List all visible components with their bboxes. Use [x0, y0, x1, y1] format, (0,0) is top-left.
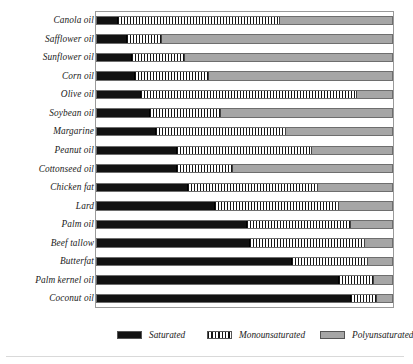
category-label: Cottonseed oil [39, 160, 94, 179]
bar-segment-monounsaturated [127, 35, 162, 42]
stacked-bar [96, 16, 393, 25]
legend-label-monounsaturated: Monounsaturated [239, 330, 305, 340]
legend-label-polyunsaturated: Polyunsaturated [352, 330, 413, 340]
bar-segment-monounsaturated [156, 128, 286, 135]
category-label: Safflower oil [45, 30, 94, 49]
category-label: Butterfat [60, 252, 94, 271]
category-label: Chicken fat [50, 178, 94, 197]
category-label: Beef tallow [51, 234, 94, 253]
bar-segment-monounsaturated [339, 276, 374, 283]
bar-segment-polyunsaturated [318, 184, 392, 191]
chart-legend: Saturated Monounsaturated Polyunsaturate… [0, 327, 410, 343]
bar-segment-saturated [97, 202, 215, 209]
stacked-bar [96, 257, 393, 266]
table-row: Sunflower oil [0, 48, 410, 67]
table-row: Margarine [0, 122, 410, 141]
bar-segment-monounsaturated [177, 165, 233, 172]
bar-segment-saturated [97, 184, 188, 191]
legend-swatch-saturated [117, 331, 142, 339]
bar-segment-polyunsaturated [286, 128, 392, 135]
bar-segment-monounsaturated [141, 91, 356, 98]
bar-segment-monounsaturated [132, 54, 185, 61]
bar-segment-saturated [97, 72, 135, 79]
stacked-bar [96, 275, 393, 284]
bar-segment-polyunsaturated [280, 17, 392, 24]
table-row: Butterfat [0, 252, 410, 271]
stacked-bar [96, 127, 393, 136]
bar-segment-polyunsaturated [221, 109, 392, 116]
table-row: Palm kernel oil [0, 271, 410, 290]
bar-segment-polyunsaturated [339, 202, 392, 209]
table-row: Canola oil [0, 11, 410, 30]
bar-segment-saturated [97, 295, 351, 302]
bar-segment-polyunsaturated [365, 239, 392, 246]
legend-swatch-monounsaturated [207, 331, 232, 339]
bar-segment-saturated [97, 165, 177, 172]
bar-segment-saturated [97, 17, 118, 24]
bar-segment-monounsaturated [351, 295, 378, 302]
bar-segment-monounsaturated [247, 221, 350, 228]
bar-segment-monounsaturated [118, 17, 280, 24]
stacked-bar [96, 201, 393, 210]
top-artifact-strip [0, 0, 410, 9]
table-row: Coconut oil [0, 289, 410, 308]
bar-segment-monounsaturated [177, 147, 313, 154]
table-row: Cottonseed oil [0, 160, 410, 179]
bar-rows-container: Canola oilSafflower oilSunflower oilCorn… [0, 11, 410, 308]
bar-segment-saturated [97, 35, 127, 42]
bar-segment-polyunsaturated [357, 91, 392, 98]
stacked-bar [96, 183, 393, 192]
table-row: Peanut oil [0, 141, 410, 160]
bar-segment-saturated [97, 54, 132, 61]
stacked-bar [96, 90, 393, 99]
category-label: Lard [76, 197, 94, 216]
bottom-divider [6, 356, 404, 357]
bar-segment-polyunsaturated [185, 54, 392, 61]
legend-item-polyunsaturated: Polyunsaturated [320, 327, 413, 343]
legend-label-saturated: Saturated [149, 330, 185, 340]
table-row: Beef tallow [0, 234, 410, 253]
bar-segment-monounsaturated [150, 109, 221, 116]
bar-segment-polyunsaturated [351, 221, 392, 228]
bar-segment-saturated [97, 91, 141, 98]
bar-segment-polyunsaturated [209, 72, 392, 79]
category-label: Margarine [53, 122, 94, 141]
stacked-bar [96, 71, 393, 80]
table-row: Soybean oil [0, 104, 410, 123]
category-label: Palm oil [61, 215, 94, 234]
bar-segment-monounsaturated [188, 184, 318, 191]
bar-segment-monounsaturated [215, 202, 339, 209]
legend-item-saturated: Saturated [117, 327, 185, 343]
category-label: Sunflower oil [43, 48, 94, 67]
legend-item-monounsaturated: Monounsaturated [207, 327, 305, 343]
table-row: Palm oil [0, 215, 410, 234]
stacked-bar [96, 146, 393, 155]
bar-segment-monounsaturated [135, 72, 209, 79]
category-label: Coconut oil [49, 289, 94, 308]
bar-segment-polyunsaturated [374, 276, 392, 283]
stacked-bar [96, 294, 393, 303]
bar-segment-polyunsaturated [233, 165, 392, 172]
category-label: Soybean oil [49, 104, 94, 123]
category-label: Corn oil [62, 67, 94, 86]
bar-segment-saturated [97, 276, 339, 283]
bar-segment-saturated [97, 221, 247, 228]
table-row: Corn oil [0, 67, 410, 86]
stacked-bar [96, 34, 393, 43]
table-row: Safflower oil [0, 30, 410, 49]
bar-segment-polyunsaturated [162, 35, 392, 42]
bar-segment-polyunsaturated [377, 295, 392, 302]
bar-segment-monounsaturated [292, 258, 369, 265]
category-label: Palm kernel oil [35, 271, 94, 290]
category-label: Canola oil [53, 11, 94, 30]
category-label: Peanut oil [55, 141, 94, 160]
bar-segment-polyunsaturated [368, 258, 392, 265]
stacked-bar [96, 53, 393, 62]
bar-segment-saturated [97, 239, 250, 246]
table-row: Chicken fat [0, 178, 410, 197]
bar-segment-monounsaturated [250, 239, 365, 246]
bar-segment-polyunsaturated [312, 147, 392, 154]
bar-segment-saturated [97, 128, 156, 135]
table-row: Olive oil [0, 85, 410, 104]
